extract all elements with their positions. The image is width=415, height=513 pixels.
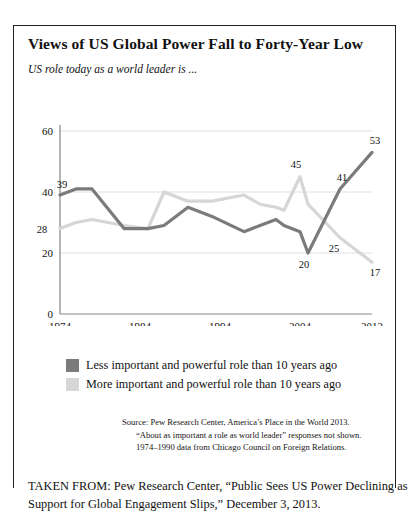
chart-point-labels: 3920415328452517	[37, 135, 381, 278]
svg-text:17: 17	[370, 267, 381, 278]
svg-text:53: 53	[370, 135, 381, 146]
source-line-1: Source: Pew Research Center, America’s P…	[122, 417, 350, 427]
line-chart-svg: 0204060 19741984199420042013 39204153284…	[14, 96, 397, 326]
svg-text:28: 28	[37, 224, 48, 235]
svg-text:2004: 2004	[289, 320, 312, 326]
svg-text:40: 40	[42, 186, 54, 198]
svg-text:60: 60	[42, 125, 54, 137]
source-line-3: 1974–1990 data from Chicago Council on F…	[122, 441, 362, 454]
svg-text:41: 41	[337, 172, 348, 183]
source-note: Source: Pew Research Center, America’s P…	[122, 416, 362, 454]
legend-label-more-important: More important and powerful role than 10…	[86, 378, 341, 390]
svg-text:20: 20	[299, 259, 310, 270]
svg-text:1994: 1994	[209, 320, 232, 326]
chart-series-lines	[60, 152, 372, 262]
source-line-2: “About as important a role as world lead…	[122, 429, 362, 442]
chart-plot-area: 0204060 19741984199420042013 39204153284…	[14, 96, 397, 326]
svg-text:20: 20	[42, 247, 54, 259]
svg-text:25: 25	[329, 243, 340, 254]
svg-text:39: 39	[57, 179, 68, 190]
y-axis-tick-labels: 0204060	[42, 125, 54, 320]
legend-label-less-important: Less important and powerful role than 10…	[86, 359, 337, 371]
figure-container: Views of US Global Power Fall to Forty-Y…	[13, 25, 396, 488]
figure-caption: TAKEN FROM: Pew Research Center, “Public…	[28, 478, 415, 513]
svg-text:2013: 2013	[361, 320, 384, 326]
x-axis-tick-labels: 19741984199420042013	[49, 320, 384, 326]
legend-swatch-less-important	[66, 359, 79, 372]
legend-item-less-important: Less important and powerful role than 10…	[66, 356, 396, 375]
page-title: Views of US Global Power Fall to Forty-Y…	[28, 35, 363, 53]
svg-text:1974: 1974	[49, 320, 72, 326]
chart-legend: Less important and powerful role than 10…	[66, 356, 396, 394]
legend-item-more-important: More important and powerful role than 10…	[66, 375, 396, 394]
chart-subtitle: US role today as a world leader is ...	[28, 63, 197, 75]
svg-text:1984: 1984	[129, 320, 152, 326]
svg-text:0: 0	[48, 308, 54, 320]
svg-text:45: 45	[291, 159, 302, 170]
legend-swatch-more-important	[66, 378, 79, 391]
